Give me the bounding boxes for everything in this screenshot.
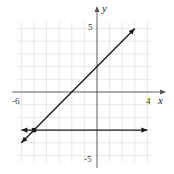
y-axis-arrow-icon: [95, 6, 100, 12]
y-max-tick-label: 5: [88, 22, 93, 32]
x-axis-label: x: [157, 94, 163, 106]
intersection-point: [32, 128, 36, 132]
coordinate-plot: -6 4 5 -5 x y: [0, 0, 174, 174]
y-axis-label: y: [101, 2, 107, 14]
x-max-tick-label: 4: [146, 96, 151, 106]
y-min-tick-label: -5: [84, 154, 92, 164]
x-min-tick-label: -6: [12, 96, 20, 106]
tick-labels: -6 4 5 -5 x y: [12, 2, 163, 164]
line-1: [21, 29, 134, 143]
arrow-head-icon: [141, 128, 147, 133]
arrow-head-icon: [21, 128, 27, 133]
